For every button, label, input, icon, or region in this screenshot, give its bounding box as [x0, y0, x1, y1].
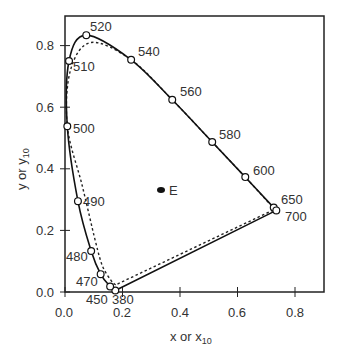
wavelength-markers: [64, 32, 280, 294]
marker-700: [273, 207, 280, 214]
y-tick-4: 0.8: [36, 38, 54, 53]
white-point-e-marker: [157, 187, 165, 193]
y-tick-3: 0.6: [36, 100, 54, 115]
marker-500: [64, 123, 71, 130]
label-500: 500: [73, 121, 95, 136]
y-tick-2: 0.4: [36, 161, 54, 176]
x-tick-2: 0.4: [171, 305, 189, 320]
spectrum-locus-2deg: [66, 35, 276, 290]
marker-480: [88, 248, 95, 255]
label-650: 650: [281, 192, 303, 207]
marker-600: [242, 174, 249, 181]
y-tick-1: 0.2: [36, 223, 54, 238]
y-axis-title: y or y10: [14, 148, 31, 190]
marker-580: [209, 139, 216, 146]
label-510: 510: [73, 59, 95, 74]
chromaticity-diagram: 0.0 0.2 0.4 0.6 0.8 0.0 0.2 0.4 0.6 0.8 …: [0, 0, 340, 358]
marker-470: [97, 271, 104, 278]
x-tick-4: 0.8: [286, 305, 304, 320]
marker-490: [75, 198, 82, 205]
label-520: 520: [90, 19, 112, 34]
y-axis-tick-labels: 0.0 0.2 0.4 0.6 0.8: [36, 38, 54, 300]
label-600: 600: [253, 163, 275, 178]
x-axis-tick-labels: 0.0 0.2 0.4 0.6 0.8: [55, 305, 304, 320]
label-470: 470: [76, 274, 98, 289]
marker-540: [128, 56, 135, 63]
label-380: 380: [112, 292, 134, 307]
x-axis-title: x or x10: [170, 329, 212, 346]
x-tick-3: 0.6: [228, 305, 246, 320]
label-580: 580: [219, 127, 241, 142]
label-450: 450: [86, 292, 108, 307]
white-point-e-label: E: [169, 183, 178, 198]
label-480: 480: [66, 249, 88, 264]
marker-450: [107, 283, 114, 290]
y-tick-0: 0.0: [36, 285, 54, 300]
x-tick-0: 0.0: [55, 305, 73, 320]
label-560: 560: [180, 84, 202, 99]
x-tick-1: 0.2: [113, 305, 131, 320]
label-540: 540: [138, 44, 160, 59]
label-700: 700: [285, 209, 307, 224]
marker-510: [66, 58, 73, 65]
label-490: 490: [83, 194, 105, 209]
marker-560: [169, 96, 176, 103]
marker-520: [83, 32, 90, 39]
spectrum-locus-10deg: [66, 42, 275, 285]
